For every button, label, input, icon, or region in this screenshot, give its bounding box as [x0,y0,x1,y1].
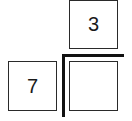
left-number-box: 7 [8,61,57,111]
left-box-label: 7 [27,75,38,98]
top-box-label: 3 [88,13,99,36]
empty-answer-box[interactable] [69,61,118,111]
thick-vertical-line [62,54,65,117]
thick-horizontal-line [62,54,124,57]
top-number-box: 3 [69,0,118,49]
